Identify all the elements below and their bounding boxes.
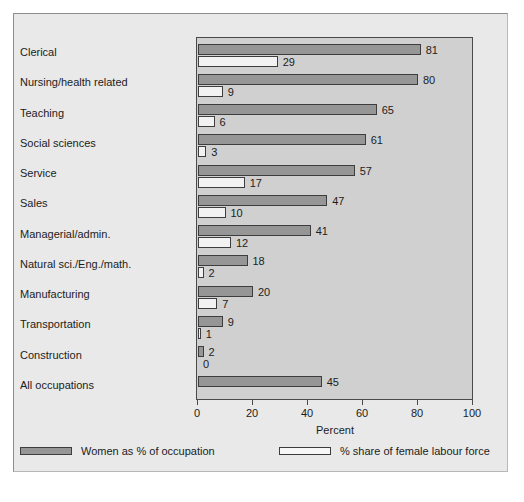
category-label: Nursing/health related — [20, 76, 192, 88]
bar-women-pct-of-occupation — [198, 195, 327, 206]
bar-share-of-female-labour-force — [198, 267, 204, 278]
bar-value-label: 12 — [236, 238, 248, 249]
bar-women-pct-of-occupation — [198, 74, 418, 85]
bar-share-of-female-labour-force — [198, 56, 278, 67]
bar-women-pct-of-occupation — [198, 376, 322, 387]
chart-legend: Women as % of occupation % share of fema… — [20, 444, 500, 460]
bar-women-pct-of-occupation — [198, 225, 311, 236]
x-axis-tick-labels: 020406080100 — [196, 407, 474, 421]
x-axis-tick — [307, 400, 308, 405]
legend-entry-share-of-female-labour-force: % share of female labour force — [279, 444, 490, 458]
x-axis-tick — [417, 400, 418, 405]
category-label: Service — [20, 167, 192, 179]
category-label-column: ClericalNursing/health relatedTeachingSo… — [20, 24, 192, 387]
bar-value-label: 18 — [253, 256, 265, 267]
x-axis-tick-label: 40 — [301, 407, 313, 419]
legend-swatch-dark — [20, 447, 72, 455]
category-label: Transportation — [20, 318, 192, 330]
plot-inner: 8129809656613571747104112182207912045 — [197, 38, 472, 399]
x-axis-tick — [362, 400, 363, 405]
bar-share-of-female-labour-force — [198, 177, 245, 188]
category-label: Teaching — [20, 107, 192, 119]
bar-share-of-female-labour-force — [198, 298, 217, 309]
bar-share-of-female-labour-force — [198, 86, 223, 97]
bar-value-label: 61 — [371, 135, 383, 146]
category-label: All occupations — [20, 379, 192, 391]
bar-women-pct-of-occupation — [198, 44, 421, 55]
legend-label: Women as % of occupation — [81, 445, 215, 457]
x-axis-tick — [197, 400, 198, 405]
bar-share-of-female-labour-force — [198, 237, 231, 248]
legend-swatch-light — [279, 447, 331, 455]
bar-value-label: 2 — [209, 268, 215, 279]
bar-women-pct-of-occupation — [198, 104, 377, 115]
bar-value-label: 20 — [258, 287, 270, 298]
bar-women-pct-of-occupation — [198, 316, 223, 327]
x-axis-tick-label: 80 — [411, 407, 423, 419]
x-axis-ticks — [196, 400, 474, 406]
bar-value-label: 80 — [423, 75, 435, 86]
bar-value-label: 0 — [203, 359, 209, 370]
bar-value-label: 65 — [382, 105, 394, 116]
bar-value-label: 3 — [211, 147, 217, 158]
bar-share-of-female-labour-force — [198, 207, 226, 218]
bar-value-label: 6 — [220, 117, 226, 128]
bar-value-label: 10 — [231, 208, 243, 219]
bar-share-of-female-labour-force — [198, 146, 206, 157]
x-axis-title: Percent — [196, 424, 474, 436]
category-label: Social sciences — [20, 137, 192, 149]
bar-value-label: 41 — [316, 226, 328, 237]
bar-women-pct-of-occupation — [198, 255, 248, 266]
bar-women-pct-of-occupation — [198, 286, 253, 297]
bar-value-label: 47 — [332, 196, 344, 207]
bar-women-pct-of-occupation — [198, 346, 204, 357]
bar-value-label: 57 — [360, 166, 372, 177]
bar-value-label: 45 — [327, 377, 339, 388]
x-axis-tick-label: 20 — [246, 407, 258, 419]
category-label: Sales — [20, 197, 192, 209]
legend-label: % share of female labour force — [340, 445, 490, 457]
bar-value-label: 9 — [228, 87, 234, 98]
x-axis-tick-label: 0 — [194, 407, 200, 419]
bar-value-label: 29 — [283, 57, 295, 68]
bar-value-label: 2 — [209, 347, 215, 358]
chart-figure: ClericalNursing/health relatedTeachingSo… — [0, 0, 524, 502]
bar-share-of-female-labour-force — [198, 328, 201, 339]
plot-area: 8129809656613571747104112182207912045 — [196, 37, 473, 400]
x-axis-tick-label: 60 — [356, 407, 368, 419]
bar-value-label: 9 — [228, 317, 234, 328]
bar-women-pct-of-occupation — [198, 134, 366, 145]
bar-value-label: 1 — [206, 329, 212, 340]
bar-value-label: 17 — [250, 178, 262, 189]
bar-women-pct-of-occupation — [198, 165, 355, 176]
x-axis-tick-label: 100 — [463, 407, 481, 419]
bar-share-of-female-labour-force — [198, 116, 215, 127]
category-label: Manufacturing — [20, 288, 192, 300]
category-label: Managerial/admin. — [20, 228, 192, 240]
category-label: Construction — [20, 349, 192, 361]
legend-entry-women-pct-of-occupation: Women as % of occupation — [20, 444, 215, 458]
bar-value-label: 81 — [426, 45, 438, 56]
category-label: Clerical — [20, 46, 192, 58]
category-label: Natural sci./Eng./math. — [20, 258, 192, 270]
x-axis-tick — [472, 400, 473, 405]
x-axis-tick — [252, 400, 253, 405]
bar-value-label: 7 — [222, 299, 228, 310]
